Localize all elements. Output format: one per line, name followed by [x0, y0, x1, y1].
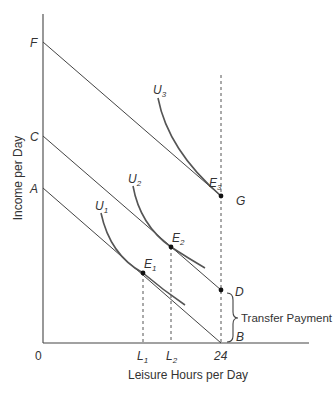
origin-label: 0 [35, 349, 42, 363]
label-d: D [235, 285, 244, 299]
point-e1 [141, 271, 146, 276]
label-u2: U2 [128, 172, 142, 188]
budget-line-cd [43, 136, 221, 290]
label-a: A [29, 182, 38, 196]
label-u3: U3 [153, 83, 167, 99]
point-d [219, 288, 224, 293]
indifference-curve-u2 [133, 186, 205, 268]
label-u1: U1 [95, 199, 108, 215]
labor-leisure-diagram: Transfer Payment F C A G D B E3 E2 E1 U3… [0, 0, 335, 396]
transfer-payment-label: Transfer Payment [241, 312, 333, 324]
label-e2: E2 [172, 231, 185, 247]
label-g: G [236, 194, 245, 208]
x-axis-title: Leisure Hours per Day [128, 368, 248, 382]
point-e2 [169, 245, 174, 250]
tick-l1: L1 [137, 349, 148, 365]
label-f: F [30, 36, 38, 50]
tick-24: 24 [213, 349, 228, 363]
label-b: B [236, 330, 244, 344]
label-e1: E1 [144, 257, 156, 273]
point-g [219, 194, 224, 199]
label-e3: E3 [209, 176, 222, 192]
y-axis-title: Income per Day [11, 136, 25, 221]
tick-l2: L2 [166, 349, 178, 365]
label-c: C [30, 130, 39, 144]
